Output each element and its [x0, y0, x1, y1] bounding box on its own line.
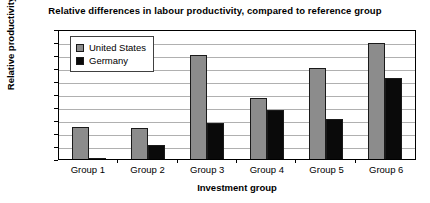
bar-united-states[interactable] — [72, 127, 89, 160]
y-tick-mark — [54, 30, 58, 31]
y-axis-title: Relative productivity — [5, 0, 16, 109]
x-tick-mark — [295, 159, 296, 163]
x-tick-label: Group 2 — [118, 164, 178, 175]
x-tick-label: Group 5 — [297, 164, 357, 175]
legend-label-germany: Germany — [89, 56, 128, 66]
plot-area: United States Germany — [58, 30, 416, 160]
legend-swatch-germany — [76, 57, 84, 65]
bar-group — [296, 31, 355, 159]
bar-group — [356, 31, 415, 159]
x-tick-label: Group 6 — [356, 164, 416, 175]
bar-united-states[interactable] — [250, 98, 267, 159]
bar-germany[interactable] — [267, 110, 284, 159]
bar-united-states[interactable] — [190, 55, 207, 159]
legend-swatch-united-states — [76, 44, 84, 52]
x-tick-label: Group 1 — [58, 164, 118, 175]
chart-container: Relative differences in labour productiv… — [0, 0, 430, 203]
y-tick-mark — [54, 43, 58, 44]
y-tick-mark — [54, 147, 58, 148]
legend-item: Germany — [76, 54, 146, 67]
x-tick-label: Group 4 — [237, 164, 297, 175]
bar-germany[interactable] — [89, 158, 106, 159]
x-tick-mark — [355, 159, 356, 163]
chart-legend: United States Germany — [70, 36, 154, 72]
x-tick-mark — [236, 159, 237, 163]
bar-germany[interactable] — [207, 123, 224, 159]
x-tick-mark — [117, 159, 118, 163]
x-axis-ticks: Group 1Group 2Group 3Group 4Group 5Group… — [58, 164, 416, 175]
bar-united-states[interactable] — [309, 68, 326, 159]
y-tick-mark — [54, 108, 58, 109]
legend-item: United States — [76, 41, 146, 54]
bar-germany[interactable] — [148, 145, 165, 159]
y-tick-mark — [54, 95, 58, 96]
bar-group — [237, 31, 296, 159]
bar-germany[interactable] — [385, 78, 402, 159]
x-tick-mark — [177, 159, 178, 163]
y-tick-mark — [54, 69, 58, 70]
chart-title: Relative differences in labour productiv… — [0, 5, 430, 17]
y-tick-mark — [54, 134, 58, 135]
legend-label-united-states: United States — [89, 43, 146, 53]
bar-group — [178, 31, 237, 159]
y-tick-mark — [54, 56, 58, 57]
bar-united-states[interactable] — [368, 43, 385, 159]
y-tick-mark — [54, 121, 58, 122]
x-tick-label: Group 3 — [177, 164, 237, 175]
bar-germany[interactable] — [326, 119, 343, 159]
bar-united-states[interactable] — [131, 128, 148, 159]
x-axis-title: Investment group — [58, 182, 416, 193]
y-tick-mark — [54, 160, 58, 161]
y-tick-mark — [54, 82, 58, 83]
